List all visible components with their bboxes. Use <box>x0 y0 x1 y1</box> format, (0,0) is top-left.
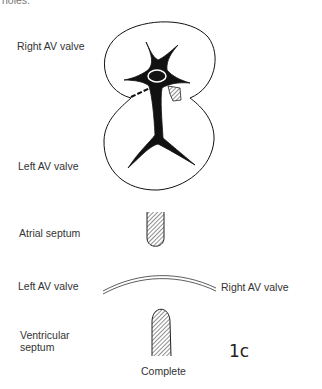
heart-diagram <box>0 0 322 389</box>
commissure-star-icon <box>124 42 195 168</box>
hatched-patch-icon <box>168 86 181 101</box>
av-valve-arc-icon <box>103 276 216 291</box>
ventricular-septum-icon <box>152 309 171 356</box>
atrial-septum-icon <box>147 212 164 246</box>
central-opening-icon <box>148 70 166 82</box>
